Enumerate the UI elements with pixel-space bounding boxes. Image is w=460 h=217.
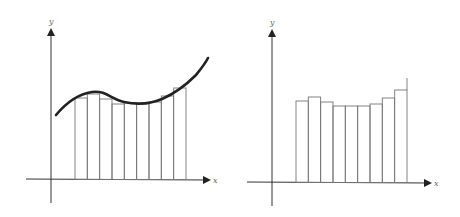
left-x-label: x <box>213 176 218 185</box>
left-y-label: y <box>48 17 54 26</box>
left-rectangles <box>75 88 186 180</box>
function-curve <box>56 58 208 115</box>
rectangle <box>308 97 320 183</box>
right-graph: x y <box>247 18 439 206</box>
rectangle <box>75 98 87 180</box>
rectangle <box>174 88 186 180</box>
rectangle <box>395 90 407 183</box>
rectangle <box>321 102 333 183</box>
rectangle <box>370 104 382 183</box>
right-y-label: y <box>269 18 275 27</box>
riemann-sum-diagram: x y x y <box>0 0 460 217</box>
rectangle <box>161 96 173 180</box>
right-rectangles <box>296 90 407 183</box>
rectangle <box>358 106 370 183</box>
rectangle <box>345 106 357 183</box>
left-graph: x y <box>26 17 218 203</box>
rectangle <box>296 101 308 183</box>
rectangle <box>112 104 124 180</box>
rectangle <box>87 94 99 180</box>
rectangle <box>124 103 136 180</box>
rectangle <box>149 102 161 180</box>
rectangle <box>100 99 112 180</box>
rectangle <box>382 98 394 183</box>
rectangle <box>137 104 149 180</box>
right-x-label: x <box>434 179 439 188</box>
rectangle <box>333 106 345 183</box>
